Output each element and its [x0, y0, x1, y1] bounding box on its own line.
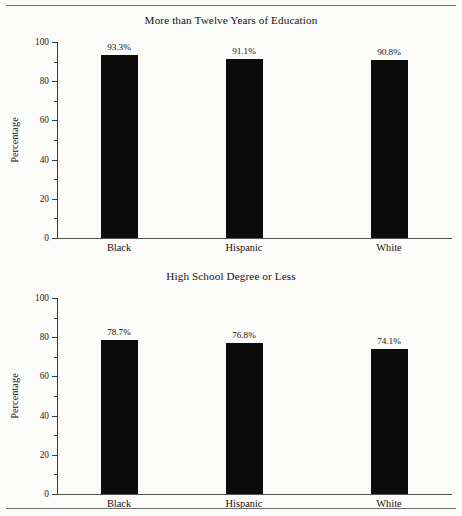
chart-panel-highschool: High School Degree or Less Percentage 02… [0, 266, 462, 508]
bar: 91.1% [226, 59, 263, 238]
y-axis-label: Percentage [9, 373, 20, 419]
y-tick-mark [52, 298, 57, 299]
y-tick-mark-minor [54, 179, 57, 180]
y-tick-mark [52, 494, 57, 495]
y-tick-mark-minor [54, 396, 57, 397]
y-tick-mark-minor [54, 318, 57, 319]
y-tick-mark [52, 376, 57, 377]
y-tick-mark [52, 120, 57, 121]
y-tick-mark [52, 160, 57, 161]
chart-panel-education: More than Twelve Years of Education Perc… [0, 10, 462, 256]
y-axis-label: Percentage [9, 117, 20, 163]
y-tick-mark-minor [54, 62, 57, 63]
y-axis-line [57, 42, 58, 238]
bar-group: 74.1%White [371, 266, 408, 498]
bar-value-label: 90.8% [377, 47, 401, 57]
y-tick-mark-minor [54, 101, 57, 102]
y-tick-mark-minor [54, 218, 57, 219]
y-tick-label: 60 [40, 115, 49, 125]
y-tick-label: 80 [40, 76, 49, 86]
y-tick-label: 60 [40, 371, 49, 381]
bar: 90.8% [371, 60, 408, 238]
y-tick-mark [52, 81, 57, 82]
bar-value-label: 93.3% [107, 42, 131, 52]
bar: 78.7% [101, 340, 138, 494]
figure-page: More than Twelve Years of Education Perc… [0, 0, 462, 516]
plot-area: 020406080100 78.7%Black76.8%Hispanic74.1… [57, 266, 452, 498]
y-tick-mark [52, 455, 57, 456]
y-tick-label: 20 [40, 194, 49, 204]
y-tick-label: 100 [35, 293, 49, 303]
y-tick-label: 100 [35, 37, 49, 47]
x-category-label: Hispanic [226, 242, 263, 253]
bar: 76.8% [226, 343, 263, 494]
y-tick-mark-minor [54, 357, 57, 358]
bar-value-label: 74.1% [377, 336, 401, 346]
y-tick-mark [52, 42, 57, 43]
y-tick-mark-minor [54, 474, 57, 475]
y-tick-label: 20 [40, 450, 49, 460]
y-tick-mark [52, 238, 57, 239]
x-category-label: White [376, 242, 401, 253]
page-rule-bottom [6, 508, 456, 509]
y-tick-label: 40 [40, 155, 49, 165]
page-rule-top [6, 5, 456, 6]
plot-area: 020406080100 93.3%Black91.1%Hispanic90.8… [57, 10, 452, 242]
y-tick-label: 40 [40, 411, 49, 421]
bar-group: 93.3%Black [101, 10, 138, 242]
x-category-label: Black [107, 242, 131, 253]
y-tick-mark [52, 199, 57, 200]
y-tick-label: 0 [44, 233, 49, 243]
y-tick-mark-minor [54, 140, 57, 141]
y-tick-mark [52, 416, 57, 417]
bar: 74.1% [371, 349, 408, 494]
bar-value-label: 78.7% [107, 327, 131, 337]
bar-group: 90.8%White [371, 10, 408, 242]
y-tick-mark-minor [54, 435, 57, 436]
bar: 93.3% [101, 55, 138, 238]
bar-value-label: 91.1% [232, 46, 256, 56]
bar-group: 78.7%Black [101, 266, 138, 498]
y-axis-line [57, 298, 58, 494]
y-tick-label: 0 [44, 489, 49, 499]
bar-value-label: 76.8% [232, 330, 256, 340]
bar-group: 91.1%Hispanic [226, 10, 263, 242]
y-tick-mark [52, 337, 57, 338]
bar-group: 76.8%Hispanic [226, 266, 263, 498]
y-tick-label: 80 [40, 332, 49, 342]
